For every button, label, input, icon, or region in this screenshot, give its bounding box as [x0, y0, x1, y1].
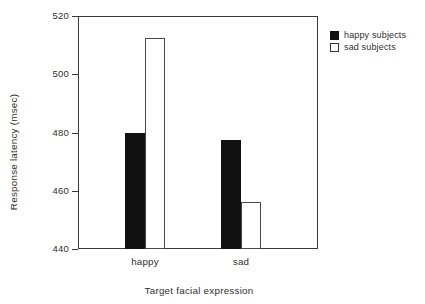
y-tick-mark — [72, 16, 78, 17]
bar-chart-figure: 520 500 480 460 440 Response latency (ms… — [0, 0, 425, 304]
y-tick-mark — [72, 133, 78, 134]
y-tick-mark — [72, 74, 78, 75]
x-axis-title: Target facial expression — [145, 285, 254, 296]
y-tick-label: 500 — [53, 70, 69, 80]
bar-happy-happy-subjects — [125, 133, 145, 250]
legend-item-happy-subjects: happy subjects — [330, 31, 406, 40]
legend-label: happy subjects — [344, 31, 406, 40]
y-tick-mark — [72, 249, 78, 250]
y-tick-mark — [72, 191, 78, 192]
bar-sad-sad-subjects — [241, 202, 261, 249]
y-tick-label: 520 — [53, 11, 69, 21]
y-tick-label: 460 — [53, 186, 69, 196]
bar-sad-happy-subjects — [221, 140, 241, 249]
y-tick-label: 480 — [53, 128, 69, 138]
plot-area: 520 500 480 460 440 — [78, 16, 318, 249]
legend-label: sad subjects — [344, 43, 396, 52]
bar-happy-sad-subjects — [145, 38, 165, 249]
legend: happy subjects sad subjects — [330, 31, 406, 55]
x-tick-label-sad: sad — [233, 257, 249, 267]
legend-item-sad-subjects: sad subjects — [330, 43, 406, 52]
legend-swatch-open-square-icon — [330, 43, 339, 52]
legend-swatch-filled-square-icon — [330, 31, 339, 40]
y-tick-label: 440 — [53, 244, 69, 254]
x-tick-label-happy: happy — [131, 257, 159, 267]
y-axis-title: Response latency (msec) — [8, 94, 19, 210]
